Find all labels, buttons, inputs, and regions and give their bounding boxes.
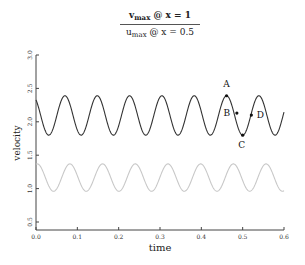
y-tick-label: 0.5 (26, 217, 33, 227)
x-tick-label: 0.4 (197, 233, 207, 240)
y-tick-label: 1.0 (26, 184, 33, 194)
x-tick-label: 0.6 (279, 233, 289, 240)
annotation-label-b: B (224, 108, 231, 118)
x-tick-label: 0.3 (155, 233, 165, 240)
x-tick-label: 0.1 (73, 233, 83, 240)
y-tick-label: 2.5 (26, 83, 33, 93)
annotation-label-d: D (257, 110, 264, 120)
title-numerator: vmax @ x = 1 (118, 10, 202, 24)
x-tick-label: 0.5 (238, 233, 248, 240)
title-denominator: umax @ x = 0.5 (118, 25, 202, 39)
x-axis-label: time (149, 242, 172, 253)
chart: 0.00.10.20.30.40.50.60.51.01.52.02.53.0 … (0, 0, 305, 265)
x-tick-label: 0.0 (31, 233, 41, 240)
series-vmax-line (36, 96, 284, 135)
annotation-point-b (235, 112, 238, 115)
annotation-point-d (250, 114, 253, 117)
annotation-point-c (241, 134, 244, 137)
annotations: ABCD (222, 79, 264, 150)
title-num-sub: max (134, 13, 150, 22)
axes: 0.00.10.20.30.40.50.60.51.01.52.02.53.0 (26, 50, 289, 240)
series-umax-line (36, 164, 284, 191)
chart-title: vmax @ x = 1 umax @ x = 0.5 (118, 10, 202, 39)
y-tick-label: 2.0 (26, 117, 33, 127)
annotation-label-a: A (222, 79, 230, 89)
title-den-rest: @ x = 0.5 (147, 27, 194, 37)
title-num-rest: @ x = 1 (150, 10, 191, 20)
y-tick-label: 1.5 (26, 150, 33, 160)
annotation-point-a (225, 94, 228, 97)
x-tick-label: 0.2 (114, 233, 124, 240)
y-tick-label: 3.0 (26, 50, 33, 60)
y-axis-label: velocity (12, 124, 22, 161)
annotation-label-c: C (238, 140, 245, 150)
title-den-sub: max (132, 31, 147, 39)
